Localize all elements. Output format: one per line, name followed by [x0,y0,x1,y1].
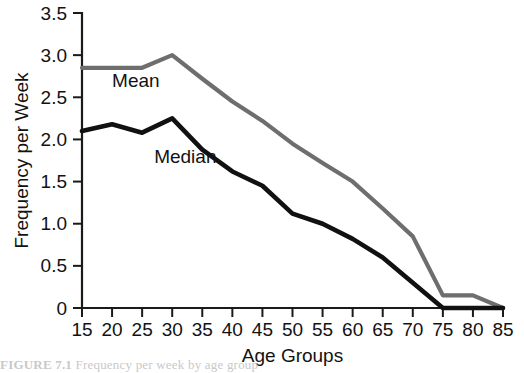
x-tick-label: 65 [372,319,393,340]
y-tick-label: 1.5 [41,171,67,192]
chart-series [82,55,503,308]
x-tick-label: 35 [192,319,213,340]
series-line-median [82,118,503,308]
series-label-mean: Mean [112,70,160,91]
x-tick-label: 15 [71,319,92,340]
y-tick-label: 3.0 [41,45,67,66]
x-tick-label: 50 [282,319,303,340]
x-tick-label: 60 [342,319,363,340]
y-tick-label: 0.5 [41,255,67,276]
x-tick-label: 30 [162,319,183,340]
y-tick-label: 3.5 [41,3,67,24]
x-tick-label: 70 [402,319,423,340]
series-label-median: Median [154,146,216,167]
x-tick-label: 45 [252,319,273,340]
figure-caption: FIGURE 7.1 Frequency per week by age gro… [0,356,524,373]
y-tick-label: 2.0 [41,129,67,150]
figure-container: 00.51.01.52.02.53.03.5 15202530354045505… [0,0,524,373]
x-tick-label: 55 [312,319,333,340]
y-tick-label: 0 [56,298,67,319]
y-tick-label: 2.5 [41,87,67,108]
y-axis-ticks: 00.51.01.52.02.53.03.5 [41,3,82,319]
figure-caption-text: Frequency per week by age group [76,357,259,372]
x-tick-label: 85 [492,319,513,340]
x-tick-label: 80 [462,319,483,340]
series-line-mean [82,55,503,308]
line-chart: 00.51.01.52.02.53.03.5 15202530354045505… [0,0,524,373]
figure-caption-label: FIGURE 7.1 [0,357,72,372]
x-tick-label: 75 [432,319,453,340]
y-tick-label: 1.0 [41,213,67,234]
series-annotations: MeanMedian [112,70,216,167]
x-tick-label: 40 [222,319,243,340]
chart-axes [82,13,503,308]
y-axis-title: Frequency per Week [11,72,32,249]
x-axis-ticks: 152025303540455055606570758085 [71,308,513,340]
x-tick-label: 20 [102,319,123,340]
axis-spines [82,13,503,308]
x-tick-label: 25 [132,319,153,340]
